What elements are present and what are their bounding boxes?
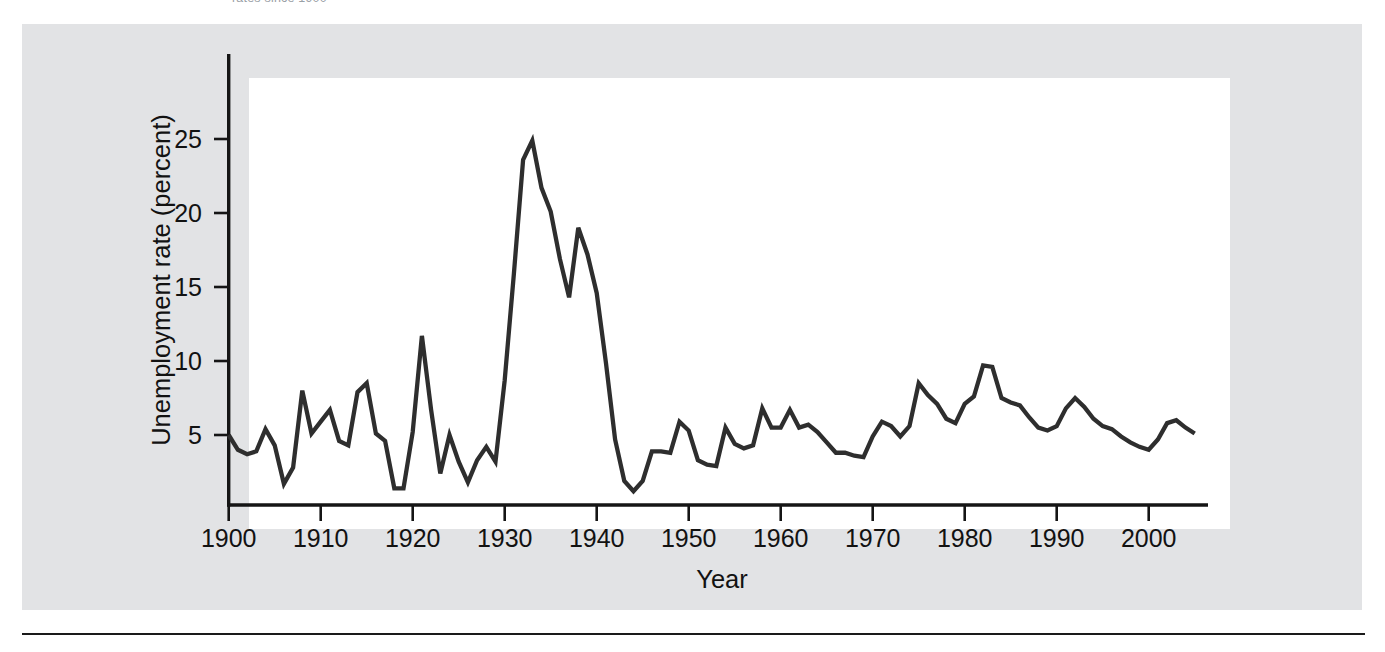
x-tick-label: 1970 <box>845 524 901 552</box>
y-tick-label: 25 <box>174 125 202 153</box>
bottom-horizontal-rule <box>22 633 1365 635</box>
x-tick-label: 1950 <box>661 524 717 552</box>
x-tick-label: 2000 <box>1121 524 1177 552</box>
unemployment-series-line <box>229 140 1195 491</box>
x-axis-ticks <box>229 505 1149 521</box>
y-axis-ticks <box>214 139 228 435</box>
x-tick-label: 1990 <box>1029 524 1085 552</box>
y-tick-label: 20 <box>174 199 202 227</box>
x-axis-tick-labels: 1900 1910 1920 1930 1940 1950 1960 1970 … <box>201 524 1177 552</box>
y-tick-label: 15 <box>174 273 202 301</box>
y-tick-label: 5 <box>188 421 202 449</box>
x-axis-title: Year <box>696 565 748 593</box>
x-tick-label: 1980 <box>937 524 993 552</box>
y-axis-title: Unemployment rate (percent) <box>147 114 175 446</box>
x-tick-label: 1940 <box>569 524 625 552</box>
x-tick-label: 1930 <box>477 524 533 552</box>
y-tick-label: 10 <box>174 347 202 375</box>
y-axis-tick-labels: 25 20 15 10 5 <box>174 125 202 449</box>
x-tick-label: 1960 <box>753 524 809 552</box>
x-tick-label: 1920 <box>385 524 441 552</box>
x-tick-label: 1910 <box>293 524 349 552</box>
x-tick-label: 1900 <box>201 524 257 552</box>
unemployment-line-chart: 25 20 15 10 5 1900 1910 1920 1930 1940 1… <box>0 0 1385 652</box>
